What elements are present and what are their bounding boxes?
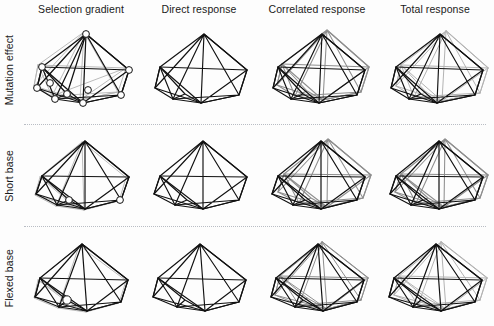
wireframe-mesh [376, 20, 494, 120]
reference-mesh-edges [35, 244, 128, 311]
wireframe-cell-flexed-base-total-response [376, 230, 494, 326]
wireframe-mesh [258, 128, 376, 228]
ghost-mesh-edges [396, 31, 488, 101]
wireframe-cell-flexed-base-selection-gradient [22, 230, 140, 326]
row-label-short-base-text: Short base [3, 150, 15, 202]
landmark-node [63, 296, 71, 304]
landmark-node [118, 92, 125, 99]
landmark-node [66, 197, 73, 204]
landmark-node [52, 96, 59, 103]
reference-mesh-edges [153, 244, 246, 311]
wireframe-mesh [22, 128, 140, 228]
wireframe-cell-flexed-base-correlated-response [258, 230, 376, 326]
wireframe-cell-flexed-base-direct-response [140, 230, 258, 326]
landmark-node [117, 197, 124, 204]
landmark-node [80, 100, 87, 107]
row-label-short-base: Short base [0, 128, 18, 224]
wireframe-mesh [258, 230, 376, 326]
landmark-node [83, 31, 90, 38]
row-label-flexed-base-text: Flexed base [3, 249, 15, 307]
wireframe-mesh [140, 128, 258, 228]
wireframe-mesh [140, 20, 258, 120]
landmark-node [39, 64, 46, 71]
ghost-mesh-edges [277, 30, 369, 100]
row-label-flexed-base: Flexed base [0, 230, 18, 326]
landmark-node [47, 80, 54, 87]
landmark-node [64, 91, 71, 98]
wireframe-grid [22, 18, 494, 326]
column-header-row: Selection gradient Direct response Corre… [22, 0, 494, 18]
landmark-node [34, 85, 41, 92]
wireframe-cell-mutation-effect-total-response [376, 20, 494, 120]
reference-mesh-edges [154, 141, 247, 209]
wireframe-cell-short-base-selection-gradient [22, 128, 140, 228]
wireframe-mesh [140, 230, 258, 326]
wireframe-cell-short-base-total-response [376, 128, 494, 228]
row-label-mutation-effect: Mutation effect [0, 18, 18, 122]
wireframe-mesh [22, 20, 140, 120]
wireframe-cell-short-base-direct-response [140, 128, 258, 228]
column-header-total-response: Total response [376, 0, 494, 18]
wireframe-cell-mutation-effect-direct-response [140, 20, 258, 120]
wireframe-cell-mutation-effect-correlated-response [258, 20, 376, 120]
landmark-markers [63, 296, 71, 304]
wireframe-response-figure: Selection gradient Direct response Corre… [0, 0, 494, 326]
wireframe-mesh [258, 20, 376, 120]
wireframe-mesh [22, 230, 140, 326]
reference-mesh-edges [155, 34, 247, 103]
column-header-correlated-response: Correlated response [258, 0, 376, 18]
row-label-mutation-effect-text: Mutation effect [3, 35, 15, 105]
landmark-node [85, 87, 92, 94]
wireframe-mesh [376, 128, 494, 228]
column-header-direct-response: Direct response [140, 0, 258, 18]
column-header-selection-gradient: Selection gradient [22, 0, 140, 18]
landmark-node [126, 67, 133, 74]
wireframe-mesh [376, 230, 494, 326]
ghost-mesh-edges [34, 32, 126, 100]
wireframe-cell-mutation-effect-selection-gradient [22, 20, 140, 120]
wireframe-cell-short-base-correlated-response [258, 128, 376, 228]
